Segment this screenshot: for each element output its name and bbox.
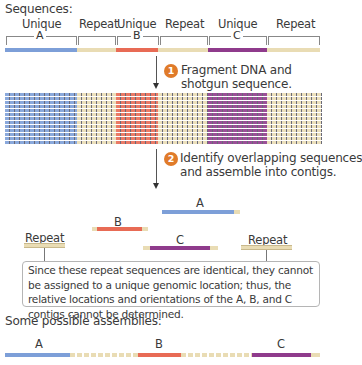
fragment-strip [77, 113, 116, 116]
fragment-strip [116, 133, 158, 136]
arrow-2-head [153, 183, 159, 189]
fragment-strip [208, 105, 267, 108]
bracket-repeat-2 [160, 36, 208, 45]
fragment-strip [158, 113, 208, 116]
fragment-strip [5, 93, 77, 96]
repeat-left-leader [44, 248, 45, 261]
fragment-strip [267, 133, 322, 136]
fragment-strip [208, 117, 267, 120]
fragment-strip [5, 109, 77, 112]
fragment-strip [116, 101, 158, 104]
segment-repeat-2 [158, 48, 208, 52]
fragment-strip [158, 141, 208, 144]
fragment-strip [77, 97, 116, 100]
fragment-strip [5, 133, 77, 136]
fragment-strip [208, 113, 267, 116]
fragment-strip [267, 137, 322, 140]
fragment-strip [77, 129, 116, 132]
fragment-strip [77, 121, 116, 124]
assemblies-heading: Some possible assemblies: [5, 314, 162, 328]
assembly-segment-b [138, 353, 181, 357]
fragment-strip [77, 117, 116, 120]
fragment-strip [5, 121, 77, 124]
fragment-strip [158, 105, 208, 108]
arrow-1-line [156, 56, 157, 84]
step-2-badge: 2 [164, 152, 178, 166]
bracket-label-c: C [231, 31, 243, 41]
contig-b-end [142, 227, 148, 231]
fragment-strip [77, 101, 116, 104]
repeat-right-leader [266, 250, 267, 261]
label-repeat-3: Repeat [276, 17, 315, 31]
fragment-strip [5, 113, 77, 116]
fragment-strip [5, 141, 77, 144]
step-1-badge: 1 [164, 64, 178, 78]
assembly-label-a: A [35, 337, 43, 351]
sequences-heading: Sequences: [5, 2, 73, 16]
fragment-strip [267, 129, 322, 132]
assembly-segment-a [5, 353, 70, 357]
fragment-strip [208, 101, 267, 104]
fragment-strip [158, 125, 208, 128]
bracket-repeat-3 [268, 36, 320, 45]
fragment-strip [77, 105, 116, 108]
bracket-label-b: B [131, 31, 143, 41]
arrow-2-line [156, 149, 157, 184]
contig-b [97, 227, 142, 231]
fragment-strip [116, 105, 158, 108]
fragment-strip [267, 101, 322, 104]
fragment-strip [267, 97, 322, 100]
step-2-line-2: and assemble into contigs. [180, 165, 336, 179]
segment-unique-b [116, 48, 158, 52]
fragment-strip [5, 129, 77, 132]
fragment-strip [116, 141, 158, 144]
contig-a-end [234, 210, 240, 214]
fragment-strip [116, 129, 158, 132]
fragment-strip [5, 117, 77, 120]
fragment-strip [116, 121, 158, 124]
bracket-label-a: A [34, 31, 46, 41]
step-1-line-1: Fragment DNA and [181, 63, 292, 77]
label-repeat-2: Repeat [165, 17, 204, 31]
fragment-strip [158, 133, 208, 136]
fragment-strip [208, 109, 267, 112]
fragment-strip [158, 117, 208, 120]
fragment-strip [267, 117, 322, 120]
fragment-strip [116, 137, 158, 140]
fragment-strip [5, 101, 77, 104]
fragment-strip [5, 137, 77, 140]
fragment-strip [77, 109, 116, 112]
fragment-strip [158, 121, 208, 124]
assembly-label-c: C [277, 337, 285, 351]
fragment-strip [77, 137, 116, 140]
segment-repeat-3 [267, 48, 320, 52]
assembly-segment-c [252, 353, 311, 357]
fragment-strip [158, 93, 208, 96]
fragment-strip [77, 125, 116, 128]
fragment-strip [208, 141, 267, 144]
fragment-strip [267, 125, 322, 128]
step-1-line-2: shotgun sequence. [181, 77, 292, 91]
fragment-strip [158, 137, 208, 140]
fragment-strip [116, 93, 158, 96]
fragment-strip [267, 105, 322, 108]
fragment-strip [77, 93, 116, 96]
assembly-segment-end [311, 353, 320, 357]
contig-c-label: C [176, 233, 184, 247]
fragment-strip [158, 97, 208, 100]
fragment-strip [116, 113, 158, 116]
contig-c-start [143, 246, 150, 250]
fragment-strip [267, 113, 322, 116]
bracket-repeat-1 [78, 36, 116, 45]
fragment-strip [208, 97, 267, 100]
fragment-strip [116, 97, 158, 100]
segment-repeat-1 [77, 48, 116, 52]
fragment-strip [267, 141, 322, 144]
fragment-strip [77, 133, 116, 136]
segment-unique-a [5, 48, 77, 52]
fragment-strip [208, 93, 267, 96]
fragment-strip [5, 125, 77, 128]
segment-unique-c [208, 48, 267, 52]
contig-c [150, 246, 210, 250]
contig-a-label: A [196, 196, 204, 210]
